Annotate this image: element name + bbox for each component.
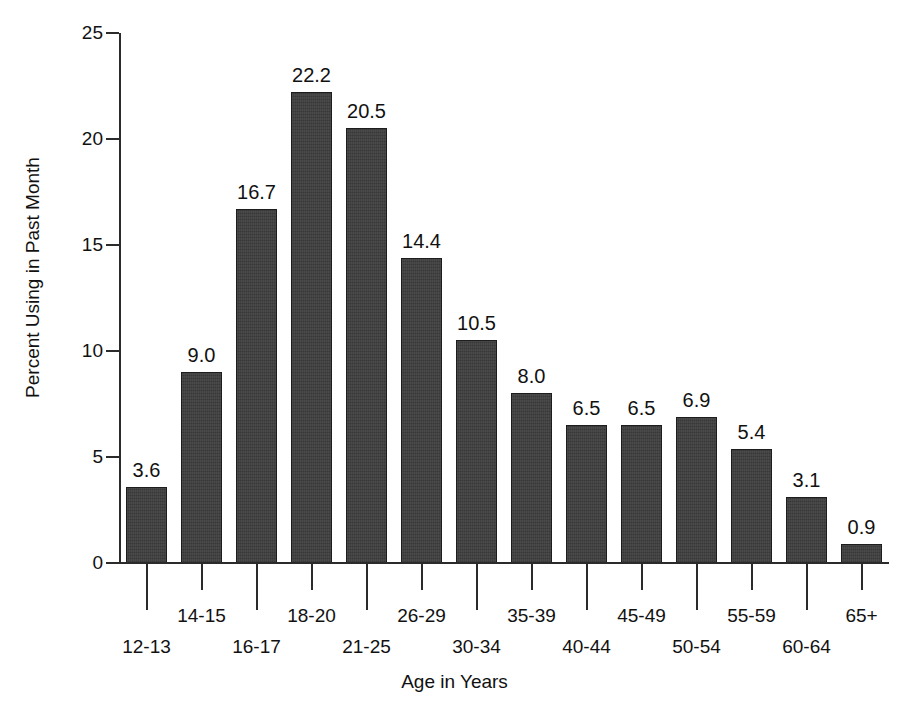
x-axis-tick	[531, 564, 533, 590]
bar	[566, 425, 607, 563]
bar-value-label: 3.6	[112, 460, 181, 480]
y-axis-tick	[106, 562, 119, 564]
x-axis-tick	[476, 564, 478, 610]
bar-value-label: 3.1	[772, 470, 841, 490]
bar-chart-figure: 3.69.016.722.220.514.410.58.06.56.56.95.…	[0, 0, 909, 710]
bar-value-label: 20.5	[332, 101, 401, 121]
y-axis-tick-label: 10	[43, 341, 103, 360]
x-axis-tick	[806, 564, 808, 610]
bar-value-label: 16.7	[222, 182, 291, 202]
bar	[511, 393, 552, 563]
x-axis-tick-label: 30-34	[422, 637, 532, 656]
y-axis-tick	[106, 32, 119, 34]
y-axis-tick	[106, 350, 119, 352]
x-axis-tick	[861, 564, 863, 590]
x-axis-tick-label: 55-59	[697, 606, 807, 625]
bar	[236, 209, 277, 563]
x-axis-tick-label: 26-29	[367, 606, 477, 625]
x-axis-tick-label: 65+	[807, 606, 909, 625]
x-axis-tick	[146, 564, 148, 610]
bar-value-label: 8.0	[497, 366, 566, 386]
bar	[621, 425, 662, 563]
bar-value-label: 9.0	[167, 345, 236, 365]
y-axis-tick-label: 15	[43, 235, 103, 254]
x-axis-tick-label: 35-39	[477, 606, 587, 625]
y-axis-tick	[106, 456, 119, 458]
bar	[456, 340, 497, 563]
x-axis-tick-label: 21-25	[312, 637, 422, 656]
bar	[676, 417, 717, 563]
bar	[731, 449, 772, 563]
x-axis-tick	[696, 564, 698, 610]
bar-value-label: 5.4	[717, 422, 786, 442]
bar	[841, 544, 882, 563]
x-axis-tick	[366, 564, 368, 610]
x-axis-line	[119, 562, 889, 564]
y-axis-tick-label: 5	[43, 447, 103, 466]
x-axis-tick	[201, 564, 203, 590]
bar	[401, 258, 442, 563]
x-axis-tick-label: 12-13	[92, 637, 202, 656]
x-axis-tick	[751, 564, 753, 590]
x-axis-tick	[256, 564, 258, 610]
x-axis-tick	[311, 564, 313, 590]
y-axis-tick	[106, 244, 119, 246]
bar-value-label: 6.9	[662, 390, 731, 410]
plot-area: 3.69.016.722.220.514.410.58.06.56.56.95.…	[119, 33, 889, 563]
x-axis-tick	[586, 564, 588, 610]
bar	[291, 92, 332, 563]
y-axis-tick-label: 20	[43, 129, 103, 148]
y-axis-line	[119, 33, 121, 564]
x-axis-tick-label: 45-49	[587, 606, 697, 625]
x-axis-tick-label: 18-20	[257, 606, 367, 625]
y-axis-tick-label: 25	[43, 23, 103, 42]
y-axis-title: Percent Using in Past Month	[23, 43, 42, 513]
x-axis-tick-label: 16-17	[202, 637, 312, 656]
bar	[181, 372, 222, 563]
x-axis-tick-label: 40-44	[532, 637, 642, 656]
x-axis-title: Age in Years	[0, 672, 909, 691]
bar-value-label: 14.4	[387, 231, 456, 251]
bar-value-label: 0.9	[827, 517, 896, 537]
x-axis-tick	[641, 564, 643, 590]
bar	[346, 128, 387, 563]
x-axis-tick-label: 14-15	[147, 606, 257, 625]
bar-value-label: 22.2	[277, 65, 346, 85]
bar	[126, 487, 167, 563]
bar-value-label: 10.5	[442, 313, 511, 333]
y-axis-tick-label: 0	[43, 553, 103, 572]
x-axis-tick-label: 50-54	[642, 637, 752, 656]
x-axis-tick	[421, 564, 423, 590]
x-axis-tick-label: 60-64	[752, 637, 862, 656]
bar	[786, 497, 827, 563]
y-axis-tick	[106, 138, 119, 140]
